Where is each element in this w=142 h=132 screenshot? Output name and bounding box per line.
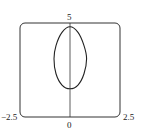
x-max-label: 2.5 xyxy=(123,113,134,122)
y-max-label: 5 xyxy=(67,13,72,22)
y-min-label: 0 xyxy=(67,121,72,130)
x-min-label: −2.5 xyxy=(1,113,17,122)
